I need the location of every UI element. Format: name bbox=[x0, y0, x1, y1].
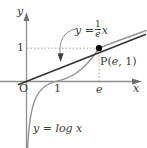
point-label-P: P(e, 1) bbox=[100, 56, 137, 67]
y-tick-label-1: 1 bbox=[17, 42, 24, 53]
leader-arrowhead-icon bbox=[58, 53, 64, 62]
x-tick-label-1: 1 bbox=[54, 83, 61, 94]
fraction-numerator: 1 bbox=[95, 20, 101, 29]
x-axis-label: x bbox=[133, 83, 139, 94]
log-curve-equation-label: y = log x bbox=[33, 123, 82, 134]
y-axis-label: y bbox=[17, 6, 23, 17]
tangent-equation-variable: x bbox=[102, 24, 108, 37]
leader-arrow-line bbox=[60, 29, 76, 55]
math-figure: y x O 1 e 1 y =1ex P(e, 1) y = log x bbox=[0, 0, 147, 148]
tangent-equation-lhs: y = bbox=[75, 24, 94, 37]
point-comma: , bbox=[118, 55, 122, 68]
tangent-equation-fraction: 1e bbox=[95, 20, 101, 40]
y-axis-arrow-icon bbox=[24, 12, 30, 21]
origin-label: O bbox=[19, 83, 28, 94]
tangent-equation-label: y =1ex bbox=[75, 21, 108, 41]
fraction-denominator: e bbox=[95, 29, 101, 39]
x-tick-label-e: e bbox=[96, 84, 103, 95]
point-P-marker bbox=[96, 45, 102, 51]
point-close-paren: ) bbox=[132, 55, 136, 68]
